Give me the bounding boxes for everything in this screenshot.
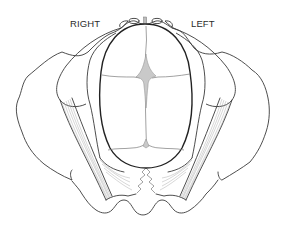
pubic-arch — [106, 194, 186, 200]
right-side-label: RIGHT — [70, 19, 100, 29]
pubic-symphysis-jagged — [137, 168, 155, 193]
left-ischial-notch — [150, 180, 218, 213]
pelvis-illustration — [0, 0, 290, 230]
pelvis-fetal-head-diagram: RIGHT LEFT — [0, 0, 290, 230]
left-side-label: LEFT — [191, 19, 215, 29]
